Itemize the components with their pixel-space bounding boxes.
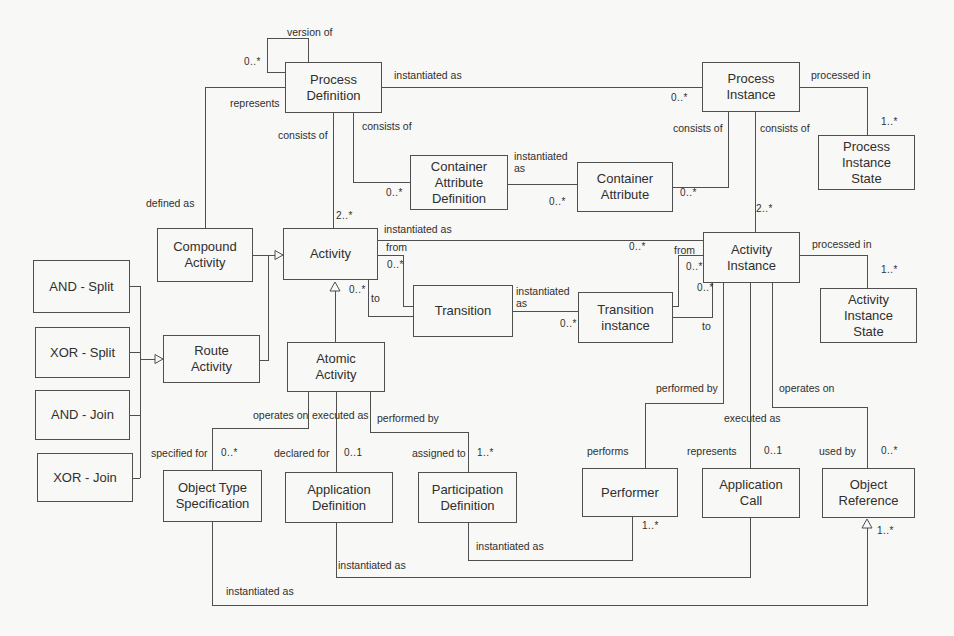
edge-partdef-performer-instantiated-as bbox=[468, 517, 632, 560]
multiplicity-pis: 1..* bbox=[881, 116, 898, 128]
multiplicity-performer-bottom: 1..* bbox=[642, 520, 659, 532]
generalization-arrow-icon bbox=[275, 251, 283, 260]
class-box-container-attribute-definition: Container Attribute Definition bbox=[410, 155, 508, 210]
label-specified-for: specified for bbox=[151, 447, 208, 459]
multiplicity-from-activity: 0..* bbox=[387, 259, 404, 271]
label-from-activity: from bbox=[386, 241, 407, 253]
class-box-compound-activity: Compound Activity bbox=[157, 228, 253, 282]
label-to-activity: to bbox=[371, 292, 380, 304]
label-executed-as-ai: executed as bbox=[724, 412, 781, 424]
generalization-arrow-icon bbox=[330, 282, 340, 291]
multiplicity-ti-left: 0..* bbox=[560, 318, 577, 330]
label-instantiated-as-pd-pi: instantiated as bbox=[394, 69, 462, 81]
multiplicity-appcall: 0..1 bbox=[764, 445, 783, 457]
multiplicity-from-ai: 0..* bbox=[686, 261, 703, 273]
label-instantiated-as-partdef: instantiated as bbox=[476, 540, 544, 552]
class-box-process-instance-state: Process Instance State bbox=[818, 135, 915, 190]
class-box-route-activity: Route Activity bbox=[163, 335, 260, 383]
label-consists-of-pi-ca: consists of bbox=[673, 122, 723, 134]
label-performed-by-ai: performed by bbox=[656, 382, 718, 394]
multiplicity-ai-left: 0..* bbox=[629, 241, 646, 253]
edge-atomic-partdef-performed-by bbox=[370, 392, 468, 472]
multiplicity-ca-left: 0..* bbox=[549, 196, 566, 208]
class-box-and-join: AND - Join bbox=[35, 390, 130, 440]
multiplicity-activity-top: 2..* bbox=[336, 210, 353, 222]
workflow-metamodel-diagram: Process Definition Process Instance Proc… bbox=[0, 0, 954, 636]
class-box-and-split: AND - Split bbox=[33, 260, 130, 313]
label-instantiated-as-ots: instantiated as bbox=[226, 585, 294, 597]
label-consists-of-pd-cad: consists of bbox=[362, 120, 412, 132]
class-box-performer: Performer bbox=[582, 468, 678, 517]
label-instantiated-as-transition: instantiated as bbox=[516, 285, 570, 309]
multiplicity-ots: 0..* bbox=[221, 447, 238, 459]
multiplicity-to-activity: 0..* bbox=[349, 284, 366, 296]
label-processed-in-pi: processed in bbox=[811, 69, 871, 81]
multiplicity-ca-right: 0..* bbox=[680, 187, 697, 199]
edge-route-activity-generalization-riser bbox=[260, 255, 268, 360]
multiplicity-version-of: 0..* bbox=[244, 56, 261, 68]
class-box-application-definition: Application Definition bbox=[285, 472, 393, 523]
class-box-container-attribute: Container Attribute bbox=[577, 162, 673, 212]
edge-pi-pis-processed-in bbox=[800, 87, 867, 135]
class-box-object-type-specification: Object Type Specification bbox=[163, 470, 262, 522]
label-defined-as: defined as bbox=[146, 197, 194, 209]
label-represents-appcall: represents bbox=[687, 445, 737, 457]
multiplicity-to-ai: 0..* bbox=[697, 282, 714, 294]
label-from-ai: from bbox=[674, 244, 695, 256]
class-box-transition-instance: Transition instance bbox=[578, 292, 673, 343]
label-consists-of-pd-activity: consists of bbox=[278, 129, 328, 141]
label-consists-of-pi-ai: consists of bbox=[760, 122, 810, 134]
generalization-arrow-icon bbox=[155, 355, 163, 364]
class-box-atomic-activity: Atomic Activity bbox=[287, 342, 385, 392]
class-box-participation-definition: Participation Definition bbox=[418, 472, 517, 523]
multiplicity-ais: 1..* bbox=[881, 264, 898, 276]
class-box-activity: Activity bbox=[283, 228, 378, 280]
label-declared-for: declared for bbox=[274, 447, 329, 459]
class-box-xor-join: XOR - Join bbox=[37, 453, 133, 502]
label-performed-by-atomic: performed by bbox=[377, 412, 439, 424]
class-box-transition: Transition bbox=[413, 285, 513, 337]
multiplicity-objref-top: 0..* bbox=[881, 445, 898, 457]
label-executed-as-atomic: executed as bbox=[312, 409, 369, 421]
label-operates-on-atomic: operates on bbox=[253, 409, 308, 421]
multiplicity-partdef: 1..* bbox=[477, 447, 494, 459]
label-processed-in-ai: processed in bbox=[812, 238, 872, 250]
class-box-object-reference: Object Reference bbox=[822, 468, 915, 518]
generalization-arrow-icon bbox=[862, 519, 872, 528]
label-performs: performs bbox=[587, 445, 628, 457]
label-assigned-to: assigned to bbox=[412, 447, 466, 459]
class-box-xor-split: XOR - Split bbox=[35, 327, 130, 378]
label-instantiated-as-appdef: instantiated as bbox=[338, 559, 406, 571]
label-instantiated-as-activity-ai: instantiated as bbox=[384, 223, 452, 235]
class-box-process-instance: Process Instance bbox=[702, 62, 800, 112]
label-version-of: version of bbox=[287, 26, 333, 38]
label-operates-on-ai: operates on bbox=[779, 382, 834, 394]
edge-ots-objref-instantiated-as bbox=[212, 522, 867, 605]
label-represents-pd: represents bbox=[230, 97, 280, 109]
label-to-ai: to bbox=[702, 320, 711, 332]
class-box-process-definition: Process Definition bbox=[285, 62, 382, 113]
label-instantiated-as-cad-ca: instantiated as bbox=[514, 150, 568, 174]
multiplicity-cad: 0..* bbox=[386, 187, 403, 199]
multiplicity-pd-pi: 0..* bbox=[671, 92, 688, 104]
class-box-application-call: Application Call bbox=[702, 468, 800, 518]
class-box-activity-instance-state: Activity Instance State bbox=[820, 288, 917, 343]
multiplicity-ai-top: 2..* bbox=[756, 203, 773, 215]
label-used-by: used by bbox=[819, 445, 856, 457]
edge-ai-ais-processed-in bbox=[800, 255, 867, 288]
multiplicity-objref-bottom: 1..* bbox=[877, 525, 894, 537]
multiplicity-appdef: 0..1 bbox=[344, 447, 363, 459]
class-box-activity-instance: Activity Instance bbox=[703, 232, 800, 283]
